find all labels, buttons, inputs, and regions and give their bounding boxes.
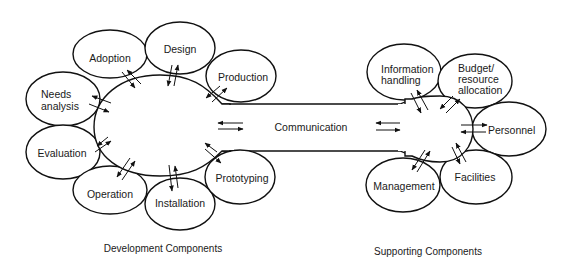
label-needs-analysis-2: analysis (41, 100, 79, 112)
caption-development: Development Components (104, 243, 222, 254)
label-production: Production (218, 71, 268, 83)
label-budget-3: allocation (458, 84, 503, 96)
label-prototyping: Prototyping (215, 172, 268, 184)
label-evaluation: Evaluation (37, 147, 86, 159)
label-adoption: Adoption (89, 52, 131, 64)
label-needs-analysis-1: Needs (41, 88, 71, 100)
development-hub (94, 75, 230, 176)
label-facilities: Facilities (455, 171, 496, 183)
label-information-handling-2: handling (381, 74, 421, 86)
caption-supporting: Supporting Components (374, 246, 482, 257)
label-communication: Communication (275, 121, 348, 133)
component-diagram: Adoption Design Production Needs analysi… (0, 0, 573, 259)
label-installation: Installation (155, 197, 205, 209)
label-personnel: Personnel (488, 124, 535, 136)
label-management: Management (373, 180, 434, 192)
label-design: Design (164, 43, 197, 55)
label-operation: Operation (87, 188, 133, 200)
